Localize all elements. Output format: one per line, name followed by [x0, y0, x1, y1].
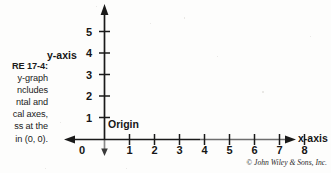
x-tick-label: 6 [248, 144, 262, 156]
y-axis-label: y-axis [47, 49, 77, 61]
figure-page: RE 17-4: y-graph ncludes ntal and cal ax… [0, 0, 331, 173]
x-tick-label: 8 [298, 144, 312, 156]
x-tick-label: 7 [273, 144, 287, 156]
x-axis-label: x-axis [298, 132, 328, 144]
x-tick-label: 1 [123, 144, 137, 156]
copyright-credit: © John Wiley & Sons, Inc. [246, 158, 327, 167]
y-axis-arrow-down-icon [101, 149, 108, 157]
x-axis-arrow-left-icon [64, 135, 75, 143]
x-tick-label: 4 [198, 144, 212, 156]
y-tick-label: 4 [76, 47, 92, 59]
y-tick-label: 3 [76, 69, 92, 81]
x-axis-arrow-right-icon [285, 135, 296, 143]
y-axis-arrow-up-icon [101, 4, 109, 15]
x-tick-label: 5 [223, 144, 237, 156]
y-tick-label: 1 [76, 112, 92, 124]
y-tick-label: 5 [76, 26, 92, 38]
origin-label: Origin [108, 118, 139, 130]
y-tick-label: 2 [76, 90, 92, 102]
x-tick-label: 2 [148, 144, 162, 156]
x-tick-label: 0 [75, 144, 89, 156]
x-tick-label: 3 [173, 144, 187, 156]
y-axis-line [101, 4, 109, 156]
